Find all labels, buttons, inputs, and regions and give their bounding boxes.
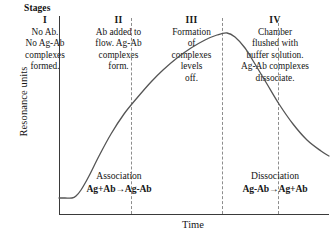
spr-sensorgram-figure: Resonance units Stages I No Ab. No Ag-Ab… (0, 0, 331, 235)
association-equation: Ag+Ab→Ag-Ab (76, 183, 162, 196)
association-label: Association (76, 170, 162, 183)
dissociation-label: Dissociation (222, 170, 328, 183)
stages-header-label: Stages (24, 3, 50, 13)
association-annotation: Association Ag+Ab→Ag-Ab (76, 170, 162, 195)
dissociation-equation: Ag-Ab→Ag+Ab (222, 183, 328, 196)
x-axis-label: Time (55, 219, 331, 230)
dissociation-annotation: Dissociation Ag-Ab→Ag+Ab (222, 170, 328, 195)
